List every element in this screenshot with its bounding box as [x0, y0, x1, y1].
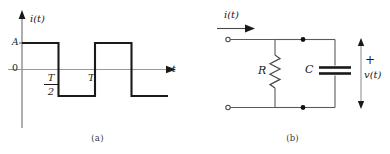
- panel-waveform-plot: i(t) A 0 t T 2 T (a): [0, 0, 195, 154]
- caption-panel-b: (b): [195, 133, 390, 143]
- current-arrow: [217, 25, 255, 33]
- resistor-label: R: [258, 65, 266, 76]
- polarity-plus-label: +: [365, 54, 375, 66]
- half-period-tick-label: T 2: [44, 73, 58, 97]
- node-dot-bottom: [301, 105, 306, 110]
- half-period-denominator: 2: [44, 86, 58, 97]
- resistor-symbol: [270, 55, 280, 88]
- input-terminal-bottom: [226, 105, 230, 109]
- fraction-bar: [44, 84, 58, 85]
- half-period-numerator: T: [44, 73, 58, 84]
- origin-label: 0: [12, 63, 18, 73]
- caption-panel-a: (a): [0, 133, 195, 143]
- current-label: i(t): [224, 10, 239, 20]
- period-tick-label: T: [88, 73, 95, 83]
- input-terminal-top: [226, 37, 230, 41]
- x-axis-label: t: [172, 64, 176, 74]
- capacitor-label: C: [305, 64, 313, 75]
- panel-circuit-diagram: i(t) R C + v(t) (b): [195, 0, 390, 154]
- circuit-svg: [195, 0, 390, 154]
- figure-container: i(t) A 0 t T 2 T (a): [0, 0, 390, 154]
- node-dot-top: [301, 37, 306, 42]
- y-axis-label: i(t): [30, 14, 45, 24]
- voltage-label: v(t): [364, 70, 381, 80]
- amplitude-label: A: [12, 38, 19, 47]
